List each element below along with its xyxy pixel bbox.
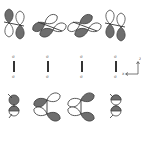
bond-3-top-label: σ [80,55,83,59]
bond-1-bottom-label: σ [12,75,15,79]
bond-3 [81,61,83,72]
bottom-orbital-1 [8,94,19,118]
bond-2-top-label: σ [46,55,49,59]
axes-icon [126,62,140,76]
axis-x-label: x [122,72,124,76]
bond-2-bottom-label: σ [46,75,49,79]
axis-z-label: z [139,57,141,61]
bottom-orbital-3 [66,91,95,122]
bottom-orbital-2 [32,91,61,122]
bond-1-top-label: σ [12,55,15,59]
bond-4-top-label: σ [114,55,117,59]
bond-3-bottom-label: σ [80,75,83,79]
bond-4-bottom-label: σ [114,75,117,79]
bond-1 [13,61,15,72]
top-orbital-1 [4,9,24,39]
bond-2 [47,61,49,72]
bottom-orbital-4 [110,94,121,118]
top-orbital-4 [105,10,125,41]
orbital-diagram: σ σ σ σ σ σ σ σ x z [0,0,141,144]
bond-4 [115,61,117,72]
top-orbital-2 [31,12,68,38]
top-orbital-3 [66,12,103,38]
orbital-diagram-svg [0,0,141,144]
